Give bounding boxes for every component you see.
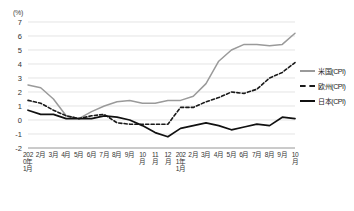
legend-item-europe: 欧州(CPI) (300, 78, 346, 93)
legend-line-japan-icon (300, 100, 315, 102)
series-paths (28, 33, 295, 137)
legend-item-japan: 日本(CPI) (300, 93, 346, 108)
chart-legend: 米国(CPI) 欧州(CPI) 日本(CPI) (300, 63, 346, 108)
legend-line-us-icon (300, 70, 315, 72)
series-line (28, 63, 295, 125)
gridlines (28, 22, 295, 148)
legend-item-us: 米国(CPI) (300, 63, 346, 78)
cpi-line-chart: (%) 76543210-1-2 2020年1月2月3月4月5月6月7月8月9月… (0, 0, 354, 211)
legend-label-japan: 日本(CPI) (318, 96, 346, 106)
legend-label-europe: 欧州(CPI) (318, 81, 346, 91)
legend-label-us: 米国(CPI) (318, 66, 346, 76)
legend-line-europe-icon (300, 85, 315, 87)
